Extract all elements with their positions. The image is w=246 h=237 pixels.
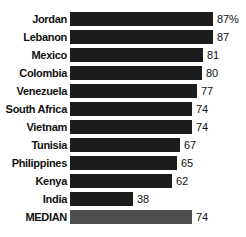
chart-row: Mexico81 (0, 48, 246, 62)
bar-track (70, 156, 177, 170)
bar (70, 84, 197, 98)
bar (70, 30, 213, 44)
bar-track (70, 138, 180, 152)
bar-track (70, 12, 213, 26)
value-label: 80 (206, 66, 218, 80)
bar-chart: Jordan87%Lebanon87Mexico81Colombia80Vene… (0, 0, 246, 237)
bar (70, 192, 133, 206)
category-label: India (0, 192, 67, 206)
chart-row: Tunisia67 (0, 138, 246, 152)
value-label: 74 (196, 210, 208, 224)
category-label: Tunisia (0, 138, 67, 152)
chart-row: India38 (0, 192, 246, 206)
bar (70, 210, 192, 224)
bar (70, 48, 203, 62)
chart-row: MEDIAN74 (0, 210, 246, 224)
category-label: MEDIAN (0, 210, 67, 224)
bar (70, 66, 202, 80)
bar-track (70, 102, 192, 116)
category-label: Jordan (0, 12, 67, 26)
chart-row: Vietnam74 (0, 120, 246, 134)
chart-row: Colombia80 (0, 66, 246, 80)
bar (70, 120, 192, 134)
chart-row: Philippines65 (0, 156, 246, 170)
category-label: Venezuela (0, 84, 67, 98)
bar (70, 174, 172, 188)
value-label: 74 (196, 120, 208, 134)
value-label: 38 (137, 192, 149, 206)
bar-track (70, 192, 133, 206)
chart-row: Jordan87% (0, 12, 246, 26)
bar (70, 138, 180, 152)
chart-row: Kenya62 (0, 174, 246, 188)
bar (70, 102, 192, 116)
bar-track (70, 120, 192, 134)
bar-track (70, 84, 197, 98)
bar-track (70, 174, 172, 188)
bar-track (70, 48, 203, 62)
value-label: 74 (196, 102, 208, 116)
category-label: South Africa (0, 102, 67, 116)
category-label: Mexico (0, 48, 67, 62)
bar-track (70, 66, 202, 80)
value-label: 87 (217, 30, 229, 44)
chart-row: Venezuela77 (0, 84, 246, 98)
category-label: Kenya (0, 174, 67, 188)
bar (70, 12, 213, 26)
value-label: 77 (201, 84, 213, 98)
bar (70, 156, 177, 170)
chart-row: South Africa74 (0, 102, 246, 116)
category-label: Vietnam (0, 120, 67, 134)
category-label: Colombia (0, 66, 67, 80)
bar-track (70, 30, 213, 44)
value-label: 87% (217, 12, 239, 26)
category-label: Philippines (0, 156, 67, 170)
value-label: 67 (184, 138, 196, 152)
bar-track (70, 210, 192, 224)
value-label: 65 (181, 156, 193, 170)
value-label: 62 (176, 174, 188, 188)
category-label: Lebanon (0, 30, 67, 44)
chart-row: Lebanon87 (0, 30, 246, 44)
value-label: 81 (207, 48, 219, 62)
